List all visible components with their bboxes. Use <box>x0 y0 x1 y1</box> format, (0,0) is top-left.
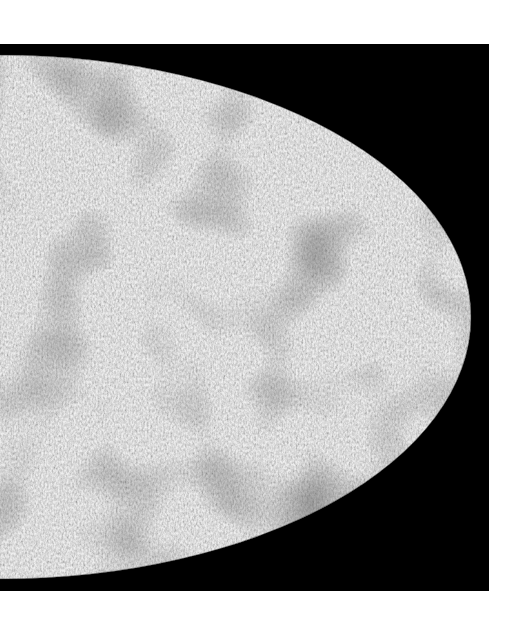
sky-map-panel: Grayscale all-sky map (Mollweide project… <box>0 44 489 591</box>
sky-map <box>0 44 489 591</box>
sky-map-ellipse <box>0 44 489 591</box>
